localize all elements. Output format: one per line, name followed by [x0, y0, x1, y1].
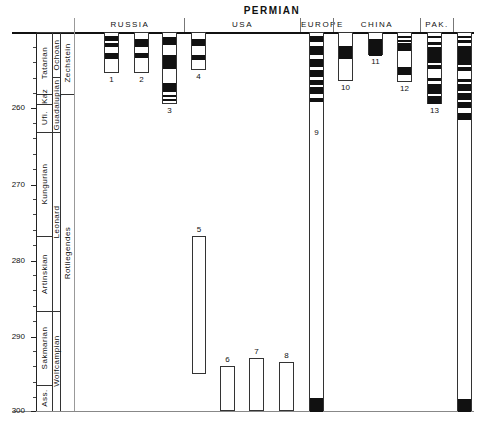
axis-tick — [31, 337, 36, 338]
column-number-3: 3 — [160, 106, 180, 115]
axis-minor-tick — [33, 351, 36, 352]
region-label-usa: USA — [185, 18, 300, 32]
polarity-column-composite — [457, 32, 472, 411]
normal-polarity-band — [105, 36, 118, 41]
normal-polarity-band — [310, 98, 323, 102]
axis-minor-tick — [33, 214, 36, 215]
normal-polarity-band — [105, 53, 118, 59]
normal-polarity-band — [192, 55, 205, 60]
normal-polarity-band — [458, 46, 471, 65]
normal-polarity-band — [163, 95, 176, 97]
axis-tick-label-290: 290 — [3, 332, 25, 341]
normal-polarity-band — [428, 36, 441, 38]
axis-minor-tick — [33, 321, 36, 322]
normal-polarity-band — [458, 113, 471, 120]
normal-polarity-band — [135, 53, 148, 58]
stage-ufi: Ufi. — [39, 104, 51, 132]
axis-minor-tick — [33, 154, 36, 155]
normal-polarity-band — [339, 46, 352, 59]
polarity-column-2 — [134, 32, 149, 73]
polarity-column-1 — [104, 32, 119, 73]
axis-tick — [31, 261, 36, 262]
polarity-column-13 — [427, 32, 442, 104]
stage-ass: Ass. — [39, 385, 51, 411]
column-number-1: 1 — [102, 75, 122, 84]
normal-polarity-band — [310, 87, 323, 94]
normal-polarity-band — [398, 36, 411, 38]
axis-minor-tick — [33, 382, 36, 383]
axis-minor-tick — [33, 275, 36, 276]
region-label-china: CHINA — [334, 18, 420, 32]
column-number-11: 11 — [366, 57, 386, 66]
column-number-7: 7 — [247, 347, 267, 356]
polarity-column-12 — [397, 32, 412, 82]
normal-polarity-band — [458, 399, 471, 412]
column-number-2: 2 — [132, 75, 152, 84]
normal-polarity-band — [458, 67, 471, 71]
normal-polarity-band — [163, 83, 176, 92]
axis-tick — [31, 411, 36, 412]
axis-line — [36, 32, 37, 411]
column-number-9: 9 — [307, 128, 327, 137]
region-label-pak: PAK. — [421, 18, 453, 32]
axis-minor-tick — [33, 93, 36, 94]
european-unit-rotliegendes: Rotliegendes — [62, 94, 74, 411]
axis-minor-tick — [33, 62, 36, 63]
column-number-4: 4 — [189, 72, 209, 81]
normal-polarity-band — [458, 36, 471, 38]
normal-polarity-band — [310, 36, 323, 42]
axis-tick-label-260: 260 — [3, 103, 25, 112]
axis-tick-label-280: 280 — [3, 256, 25, 265]
stage-kungurian: Kungurian — [39, 132, 51, 236]
normal-polarity-band — [163, 37, 176, 45]
axis-minor-tick — [33, 306, 36, 307]
normal-polarity-band — [428, 84, 441, 94]
stage-tatarian: Tatarian — [39, 32, 51, 94]
polarity-column-8 — [279, 362, 294, 411]
region-divider — [453, 18, 454, 32]
normal-polarity-band — [398, 40, 411, 42]
column-number-6: 6 — [218, 355, 238, 364]
axis-tick-label-270: 270 — [3, 180, 25, 189]
polarity-column-6 — [220, 366, 235, 411]
axis-minor-tick — [33, 290, 36, 291]
stage-artinskian: Artinskian — [39, 236, 51, 311]
normal-polarity-band — [310, 70, 323, 77]
polarity-column-3 — [162, 32, 177, 104]
normal-polarity-band — [458, 40, 471, 43]
polarity-column-4 — [191, 32, 206, 70]
normal-polarity-band — [310, 46, 323, 55]
normal-polarity-band — [310, 80, 323, 85]
polarity-column-7 — [249, 358, 264, 411]
stage-kaz: Kaz — [39, 94, 51, 104]
column-number-5: 5 — [189, 225, 209, 234]
normal-polarity-band — [458, 84, 471, 91]
column-number-13: 13 — [425, 106, 445, 115]
european-divider — [74, 18, 75, 411]
axis-minor-tick — [33, 397, 36, 398]
european-unit-zechstein: Zechstein — [62, 32, 74, 94]
axis-minor-tick — [33, 245, 36, 246]
normal-polarity-band — [135, 39, 148, 47]
polarity-column-5 — [192, 236, 206, 374]
normal-polarity-band — [428, 78, 441, 81]
axis-minor-tick — [33, 138, 36, 139]
polarity-column-11 — [368, 32, 383, 55]
column-number-8: 8 — [277, 351, 297, 360]
axis-minor-tick — [33, 199, 36, 200]
normal-polarity-band — [458, 79, 471, 82]
normal-polarity-band — [458, 93, 471, 100]
normal-polarity-band — [398, 67, 411, 75]
stage-sakmarian: Sakmarian — [39, 311, 51, 385]
normal-polarity-band — [428, 96, 441, 104]
axis-minor-tick — [33, 169, 36, 170]
normal-polarity-band — [369, 39, 382, 56]
axis-minor-tick — [33, 123, 36, 124]
column-number-12: 12 — [395, 84, 415, 93]
normal-polarity-band — [458, 102, 471, 108]
polarity-column-9 — [309, 32, 324, 411]
axis-minor-tick — [33, 78, 36, 79]
axis-minor-tick — [33, 366, 36, 367]
normal-polarity-band — [163, 99, 176, 101]
axis-tick-label-300: 300 — [3, 406, 25, 415]
